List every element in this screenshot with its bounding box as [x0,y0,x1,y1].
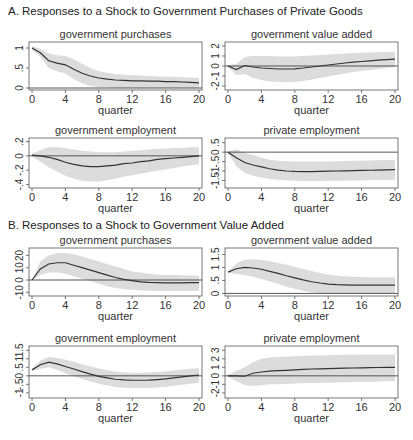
x-tick-label: 0 [29,401,35,413]
panel-title: government value added [251,28,372,40]
y-tick-label: 0 [210,290,221,296]
x-tick-label: 4 [62,93,68,105]
panel-b-government-value-added: government value added048121620quarter0.… [210,234,401,322]
confidence-band [228,259,395,293]
panel-title: private employment [264,124,360,136]
x-tick-label: 16 [355,93,367,105]
x-tick-label: 0 [225,93,231,105]
y-tick-label: -.5 [14,378,25,390]
panel-a-government-purchases: government purchases048121620quarter0.51 [14,28,205,116]
panel-a-government-value-added: government value added048121620quarter-2… [210,28,401,116]
y-tick-label: 0 [210,63,221,69]
chart-grid: government purchases048121620quarter0.51… [0,0,413,440]
y-tick-label: -2 [210,81,221,90]
x-axis-label: quarter [98,412,133,424]
y-tick-label: 10 [14,262,25,274]
confidence-band [228,355,395,387]
y-tick-label: -.2 [14,164,25,176]
y-tick-label: -10 [14,285,25,300]
x-tick-label: 4 [258,191,264,203]
y-tick-label: 0 [210,149,221,155]
y-tick-label: .2 [14,137,25,146]
x-tick-label: 20 [193,401,205,413]
panel-title: government purchases [60,234,172,246]
x-tick-label: 4 [62,299,68,311]
x-axis-label: quarter [98,104,133,116]
x-axis-label: quarter [294,202,329,214]
y-tick-label: 0 [14,85,25,91]
x-tick-label: 16 [159,191,171,203]
x-axis-label: quarter [294,310,329,322]
panel-title: government employment [55,332,176,344]
y-tick-label: -1 [210,71,221,80]
y-tick-label: -.4 [14,178,25,190]
confidence-band [32,253,199,291]
y-tick-label: 0 [14,277,25,283]
y-tick-label: 2 [210,356,221,362]
x-tick-label: 16 [355,191,367,203]
x-tick-label: 0 [225,401,231,413]
x-tick-label: 16 [355,401,367,413]
confidence-band [32,357,199,388]
y-tick-label: 1.5 [14,343,25,357]
y-tick-label: .5 [210,276,221,285]
x-tick-label: 4 [62,401,68,413]
y-tick-label: -1 [210,379,221,388]
y-tick-label: 0 [14,373,25,379]
panel-b-government-purchases: government purchases048121620quarter-100… [14,234,205,322]
x-tick-label: 20 [389,299,401,311]
x-tick-label: 16 [355,299,367,311]
y-tick-label: -.5 [210,155,221,167]
panel-b-government-employment: government employment048121620quarter-1-… [14,332,205,424]
x-tick-label: 0 [225,191,231,203]
x-tick-label: 4 [258,93,264,105]
x-axis-label: quarter [294,412,329,424]
y-tick-label: 20 [14,249,25,261]
x-tick-label: 0 [225,299,231,311]
x-tick-label: 16 [159,401,171,413]
panel-title: government employment [55,124,176,136]
panel-b-private-employment: private employment048121620quarter-2-101… [210,332,401,424]
x-tick-label: 16 [159,93,171,105]
x-tick-label: 4 [258,299,264,311]
y-tick-label: .5 [210,138,221,147]
panel-title: government purchases [60,28,172,40]
y-tick-label: 0 [14,153,25,159]
y-tick-label: 1 [210,364,221,370]
y-tick-label: 2 [210,43,221,49]
panel-title: government value added [251,234,372,246]
y-tick-label: 1 [14,45,25,51]
y-tick-label: 1.5 [210,247,221,261]
x-axis-label: quarter [294,104,329,116]
x-axis-label: quarter [98,202,133,214]
x-tick-label: 4 [62,191,68,203]
x-tick-label: 20 [193,191,205,203]
x-axis-label: quarter [98,310,133,322]
y-tick-label: 0 [210,373,221,379]
panel-a-government-employment: government employment048121620quarter-.4… [14,124,205,214]
panel-title: private employment [264,332,360,344]
x-tick-label: 20 [193,299,205,311]
x-tick-label: 20 [389,401,401,413]
x-tick-label: 0 [29,93,35,105]
y-tick-label: 1 [210,264,221,270]
x-tick-label: 16 [159,299,171,311]
x-tick-label: 20 [389,191,401,203]
x-tick-label: 20 [389,93,401,105]
confidence-band [32,147,199,181]
x-tick-label: 20 [193,93,205,105]
x-tick-label: 0 [29,299,35,311]
y-tick-label: 3 [210,347,221,353]
panel-a-private-employment: private employment048121620quarter-1.5-1… [210,124,401,214]
y-tick-label: 1 [210,53,221,59]
x-tick-label: 0 [29,191,35,203]
y-tick-label: .5 [14,363,25,372]
x-tick-label: 4 [258,401,264,413]
y-tick-label: .5 [14,63,25,72]
